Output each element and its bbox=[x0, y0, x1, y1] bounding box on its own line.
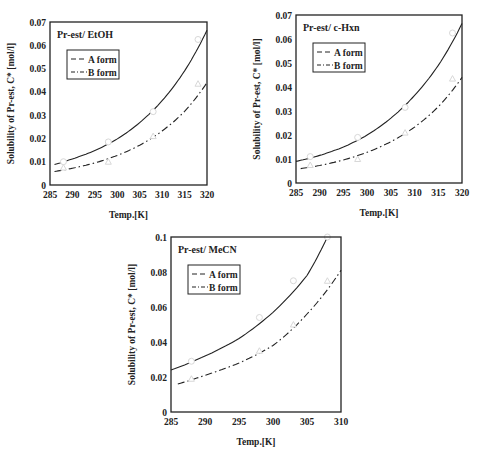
y-tick-label: 0.03 bbox=[275, 107, 292, 117]
legend-label: A form bbox=[334, 48, 363, 58]
x-tick-label: 290 bbox=[313, 188, 328, 198]
data-point-triangle bbox=[450, 76, 456, 82]
curve-line bbox=[55, 83, 208, 172]
x-axis-label: Temp.[K] bbox=[360, 208, 399, 218]
data-point-triangle bbox=[256, 348, 262, 354]
x-tick-label: 285 bbox=[164, 417, 179, 427]
x-axis-label: Temp.[K] bbox=[237, 437, 276, 447]
legend-label: B form bbox=[334, 61, 363, 71]
data-point-circle bbox=[256, 315, 262, 321]
data-point-circle bbox=[188, 358, 194, 364]
y-tick-label: 0.01 bbox=[29, 157, 46, 167]
data-point-triangle bbox=[195, 81, 201, 87]
legend-label: A form bbox=[209, 270, 238, 280]
x-tick-label: 305 bbox=[133, 190, 148, 200]
data-point-triangle bbox=[60, 165, 66, 171]
legend: A formB form bbox=[313, 43, 365, 72]
x-tick-label: 310 bbox=[334, 417, 349, 427]
x-tick-label: 285 bbox=[289, 188, 304, 198]
x-tick-label: 310 bbox=[155, 190, 170, 200]
y-tick-label: 0.04 bbox=[150, 338, 167, 348]
x-tick-label: 295 bbox=[88, 190, 103, 200]
figure-canvas: 28529029530030531031532000.010.020.030.0… bbox=[0, 0, 482, 451]
data-point-circle bbox=[450, 30, 456, 36]
x-tick-label: 295 bbox=[232, 417, 247, 427]
chart-title: Pr-est/ c-Hxn bbox=[303, 22, 360, 33]
x-tick-label: 290 bbox=[198, 417, 213, 427]
y-tick-label: 0.03 bbox=[29, 111, 46, 121]
plot-frame bbox=[296, 15, 462, 183]
data-point-triangle bbox=[290, 322, 296, 328]
legend: A formB form bbox=[188, 265, 240, 294]
y-tick-label: 0.02 bbox=[275, 131, 292, 141]
data-point-circle bbox=[195, 36, 201, 42]
y-axis-label: Solubility of Pr-est, C* [mol/l] bbox=[252, 38, 262, 159]
chart-title: Pr-est/ MeCN bbox=[178, 244, 238, 255]
plot-frame bbox=[50, 22, 207, 185]
series-b-form bbox=[55, 81, 208, 172]
chart-title: Pr-est/ EtOH bbox=[57, 29, 113, 40]
chart-3: 28529029530030531000.020.040.060.080.1Te… bbox=[127, 233, 348, 448]
x-tick-label: 300 bbox=[360, 188, 375, 198]
legend: A formB form bbox=[67, 50, 119, 79]
data-point-triangle bbox=[307, 162, 313, 168]
series-b-form bbox=[301, 76, 462, 169]
y-tick-label: 0.07 bbox=[275, 11, 292, 21]
data-point-triangle bbox=[188, 376, 194, 382]
y-tick-label: 0.04 bbox=[29, 87, 46, 97]
data-point-triangle bbox=[402, 130, 408, 136]
plot-frame bbox=[171, 237, 341, 412]
data-point-circle bbox=[402, 104, 408, 110]
y-tick-label: 0.01 bbox=[275, 155, 292, 165]
data-point-triangle bbox=[324, 278, 330, 284]
y-tick-label: 0.07 bbox=[29, 18, 46, 28]
legend-label: B form bbox=[209, 283, 238, 293]
x-tick-label: 290 bbox=[65, 190, 80, 200]
y-tick-label: 0.02 bbox=[150, 373, 167, 383]
x-tick-label: 305 bbox=[300, 417, 315, 427]
y-tick-label: 0.05 bbox=[275, 59, 292, 69]
y-tick-label: 0.06 bbox=[150, 303, 167, 313]
y-tick-label: 0.02 bbox=[29, 134, 46, 144]
y-axis-label: Solubility of Pr-est, C* [mol/l] bbox=[127, 264, 137, 385]
data-point-circle bbox=[290, 278, 296, 284]
y-tick-label: 0.08 bbox=[150, 268, 167, 278]
y-tick-label: 0.06 bbox=[275, 35, 292, 45]
data-point-circle bbox=[150, 109, 156, 115]
legend-label: B form bbox=[88, 68, 117, 78]
y-tick-label: 0.04 bbox=[275, 83, 292, 93]
y-tick-label: 0 bbox=[287, 179, 292, 189]
y-tick-label: 0.1 bbox=[155, 233, 167, 243]
data-point-circle bbox=[355, 134, 361, 140]
data-point-triangle bbox=[355, 156, 361, 162]
data-point-triangle bbox=[105, 159, 111, 165]
legend-label: A form bbox=[88, 55, 117, 65]
y-tick-label: 0.05 bbox=[29, 64, 46, 74]
x-axis-label: Temp.[K] bbox=[109, 210, 148, 220]
x-tick-label: 320 bbox=[455, 188, 470, 198]
chart-2: 28529029530030531031532000.010.020.030.0… bbox=[252, 11, 469, 219]
x-tick-label: 320 bbox=[200, 190, 215, 200]
x-tick-label: 300 bbox=[266, 417, 281, 427]
curve-line bbox=[171, 237, 327, 370]
x-tick-label: 305 bbox=[384, 188, 399, 198]
y-axis-label: Solubility of Pr-est, C* [mol/l] bbox=[6, 43, 16, 164]
y-tick-label: 0.06 bbox=[29, 41, 46, 51]
data-point-circle bbox=[307, 154, 313, 160]
x-tick-label: 295 bbox=[336, 188, 351, 198]
x-tick-label: 315 bbox=[431, 188, 446, 198]
x-tick-label: 315 bbox=[177, 190, 192, 200]
x-tick-label: 310 bbox=[407, 188, 422, 198]
y-tick-label: 0 bbox=[162, 408, 167, 418]
chart-1: 28529029530030531031532000.010.020.030.0… bbox=[6, 18, 214, 221]
x-tick-label: 285 bbox=[43, 190, 58, 200]
curve-line bbox=[301, 77, 462, 168]
x-tick-label: 300 bbox=[110, 190, 125, 200]
data-point-circle bbox=[105, 139, 111, 145]
y-tick-label: 0 bbox=[41, 181, 46, 191]
